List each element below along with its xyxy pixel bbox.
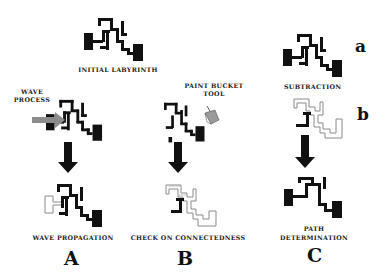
wave-process-label-line1: WAVE	[10, 88, 54, 96]
panel-letter-c: C	[307, 244, 322, 266]
connectedness-labyrinth	[166, 185, 216, 226]
wave-process-label-line2: PROCESS	[10, 96, 54, 104]
paint-bucket-label-line1: PAINT BUCKET	[184, 82, 244, 90]
panel-letter-b: B	[177, 247, 193, 269]
down-arrow-icon	[295, 135, 315, 168]
path-label-line1: PATH	[280, 225, 348, 233]
subtraction-result-labyrinth	[294, 99, 342, 138]
initial-labyrinth	[84, 18, 143, 61]
subtraction-label: SUBTRACTION	[284, 83, 340, 91]
path-determination-labyrinth	[284, 177, 342, 218]
step-a-marker: a	[355, 36, 366, 56]
paint-bucket-label-line2: TOOL	[184, 90, 244, 98]
down-arrow-icon	[168, 142, 188, 173]
paint-bucket-labyrinth	[164, 103, 205, 143]
initial-labyrinth-label: INITIAL LABYRINTH	[78, 66, 158, 74]
paint-bucket-icon	[205, 106, 219, 124]
path-label-line2: DETERMINATION	[280, 234, 348, 242]
panel-letter-a: A	[64, 247, 79, 269]
connectedness-label: CHECK ON CONNECTEDNESS	[130, 234, 246, 242]
wave-propagation-label: WAVE PROPAGATION	[30, 234, 116, 242]
wave-propagation-labyrinth	[45, 184, 102, 227]
down-arrow-icon	[58, 142, 78, 173]
step-b-marker: b	[357, 104, 369, 124]
subtraction-input-labyrinth	[283, 34, 342, 77]
